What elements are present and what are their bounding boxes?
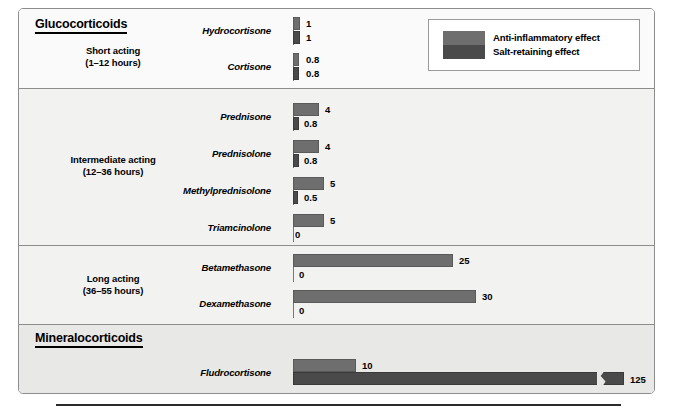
bar-value-salt: 0 <box>299 305 304 316</box>
bar-value-salt: 1 <box>306 32 311 43</box>
bar-value-anti: 1 <box>306 18 311 29</box>
bar-value-anti: 10 <box>362 360 373 371</box>
bar-value-salt: 0 <box>299 269 304 280</box>
bar-anti-inflammatory <box>293 53 299 66</box>
bar-row-dexamethasone: Dexamethasone 30 0 <box>19 288 654 320</box>
bar-value-salt: 0.8 <box>304 155 317 166</box>
chart-frame: Glucocorticoids Short acting (1–12 hours… <box>18 8 655 394</box>
bar-row-betamethasone: Betamethasone 25 0 <box>19 252 654 284</box>
bar-anti-inflammatory <box>293 140 319 153</box>
bar-anti-inflammatory <box>293 103 319 116</box>
bar-value-salt: 0.5 <box>304 192 317 203</box>
bar-anti-inflammatory <box>293 359 356 372</box>
bar-row-methylprednisolone: Methylprednisolone 5 0.5 <box>19 175 654 207</box>
section-long-acting: Long acting (36–55 hours) Betamethasone … <box>19 246 654 325</box>
row-label: Methylprednisolone <box>183 185 271 196</box>
row-label: Prednisone <box>220 111 271 122</box>
chart-legend: Anti-inflammatory effect Salt-retaining … <box>428 19 640 71</box>
section-short-acting: Glucocorticoids Short acting (1–12 hours… <box>19 9 654 89</box>
bar-row-prednisolone: Prednisolone 4 0.8 <box>19 138 654 170</box>
bar-anti-inflammatory <box>293 290 476 303</box>
bar-salt-retaining <box>293 268 295 281</box>
bar-value-salt: 0 <box>295 229 300 240</box>
bottom-divider-rule <box>56 404 621 406</box>
bar-value-anti: 5 <box>330 215 335 226</box>
bar-value-anti: 0.8 <box>306 54 319 65</box>
row-label: Betamethasone <box>202 262 272 273</box>
row-label: Triamcinolone <box>208 222 271 233</box>
legend-label-anti-inflammatory: Anti-inflammatory effect <box>493 32 600 43</box>
bar-value-anti: 4 <box>325 104 330 115</box>
legend-label-salt-retaining: Salt-retaining effect <box>493 46 579 57</box>
bar-anti-inflammatory <box>293 214 324 227</box>
bar-anti-inflammatory <box>293 17 300 30</box>
bar-value-anti: 30 <box>482 291 493 302</box>
bar-row-triamcinolone: Triamcinolone 5 0 <box>19 212 654 244</box>
section-intermediate-acting: Intermediate acting (12–36 hours) Predni… <box>19 89 654 246</box>
bar-salt-retaining <box>293 67 299 80</box>
row-label: Cortisone <box>228 61 271 72</box>
bar-value-salt: 0.8 <box>304 118 317 129</box>
bar-value-salt: 0.8 <box>306 68 319 79</box>
bar-anti-inflammatory <box>293 254 453 267</box>
bar-anti-inflammatory <box>293 177 324 190</box>
bar-row-fludrocortisone: Fludrocortisone 10 125 <box>19 357 654 389</box>
bar-salt-retaining <box>293 31 300 44</box>
row-label: Hydrocortisone <box>202 25 271 36</box>
row-label: Fludrocortisone <box>200 367 271 378</box>
bar-salt-retaining <box>293 372 624 385</box>
bar-value-salt: 125 <box>630 374 646 385</box>
legend-swatch-salt-retaining <box>443 45 485 59</box>
row-label: Prednisolone <box>212 148 271 159</box>
bar-salt-retaining <box>293 191 298 204</box>
row-label: Dexamethasone <box>199 298 271 309</box>
bar-salt-retaining <box>293 117 299 130</box>
bar-value-anti: 5 <box>330 178 335 189</box>
section-heading-mineralocorticoids: Mineralocorticoids <box>35 331 143 348</box>
legend-swatch-anti-inflammatory <box>443 31 485 45</box>
bar-value-anti: 25 <box>459 255 470 266</box>
bar-salt-retaining <box>293 304 295 317</box>
bar-salt-retaining <box>293 154 299 167</box>
bar-row-prednisone: Prednisone 4 0.8 <box>19 101 654 133</box>
bar-value-anti: 4 <box>325 141 330 152</box>
section-mineralocorticoids: Mineralocorticoids Fludrocortisone 10 12… <box>19 325 654 394</box>
